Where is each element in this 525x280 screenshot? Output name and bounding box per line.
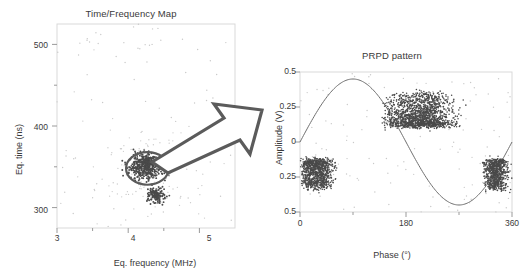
left-y-tick-300: 300 xyxy=(20,205,48,215)
right-plot-canvas xyxy=(262,0,525,280)
right-panel-title: PRPD pattern xyxy=(282,50,502,61)
left-x-tick-4: 4 xyxy=(126,233,140,243)
right-x-tick-180: 180 xyxy=(395,218,417,228)
right-data-points xyxy=(300,89,513,194)
right-y-tick-pos-half: 0.5 xyxy=(268,66,296,76)
right-y-tick-neg-half: 0.5 xyxy=(268,206,296,216)
right-x-tick-0: 0 xyxy=(293,218,307,228)
right-y-tick-zero: 0 xyxy=(268,136,296,146)
figure-container: Time/Frequency Map Eq. time (ns) Eq. fre… xyxy=(0,0,525,280)
left-x-tick-3: 3 xyxy=(50,233,64,243)
right-x-axis-label: Phase (°) xyxy=(282,250,502,260)
left-x-tick-5: 5 xyxy=(202,233,216,243)
left-y-tick-400: 400 xyxy=(20,122,48,132)
right-y-tick-neg-quarter: 0.25 xyxy=(268,171,296,181)
voltage-sine-wave xyxy=(300,79,512,205)
right-noise-points xyxy=(300,73,511,213)
right-y-tick-pos-quarter: 0.25 xyxy=(268,101,296,111)
prpd-pattern-panel: PRPD pattern Amplitude (V) Phase (°) 0.5… xyxy=(262,0,525,280)
right-x-tick-360: 360 xyxy=(501,218,523,228)
left-x-axis-label: Eq. frequency (MHz) xyxy=(55,258,255,268)
right-axis-ticks xyxy=(295,72,512,217)
left-panel-title: Time/Frequency Map xyxy=(0,8,262,19)
left-y-tick-500: 500 xyxy=(20,40,48,50)
transition-arrow xyxy=(146,96,270,176)
